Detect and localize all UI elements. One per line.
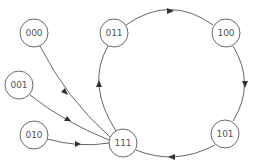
node-111: 111 — [109, 129, 137, 157]
state-diagram: 000 001 010 011 100 101 111 — [0, 0, 260, 166]
node-010-label: 010 — [25, 130, 42, 140]
edge-100-to-101 — [233, 46, 245, 121]
node-011: 011 — [100, 19, 128, 47]
node-101: 101 — [211, 120, 239, 148]
node-001-label: 001 — [10, 80, 27, 90]
arrow-000-to-111 — [61, 88, 68, 95]
edge-111-to-011 — [99, 46, 116, 131]
node-011-label: 011 — [105, 28, 122, 38]
node-000: 000 — [20, 19, 48, 47]
node-001: 001 — [5, 71, 33, 99]
edge-101-to-111 — [136, 145, 215, 157]
arrow-111-to-011 — [96, 80, 102, 87]
node-111-label: 111 — [114, 138, 131, 148]
node-100-label: 100 — [217, 28, 234, 38]
arrow-011-to-100 — [167, 8, 174, 14]
arrow-101-to-111 — [168, 154, 175, 160]
node-101-label: 101 — [216, 129, 233, 139]
node-010: 010 — [20, 121, 48, 149]
arrow-010-to-111 — [75, 141, 81, 147]
node-000-label: 000 — [25, 28, 42, 38]
node-100: 100 — [212, 19, 240, 47]
arrow-100-to-101 — [242, 81, 248, 88]
